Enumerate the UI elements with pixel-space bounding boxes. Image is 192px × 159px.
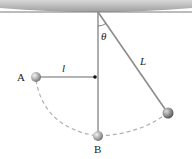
label-pendulum-length: L xyxy=(139,55,146,67)
angle-arc xyxy=(98,24,106,27)
trajectory-arc xyxy=(36,80,166,136)
ceiling xyxy=(0,0,192,12)
label-angle: θ xyxy=(101,30,107,42)
label-a: A xyxy=(17,71,25,83)
bob-b xyxy=(93,131,103,141)
pendulum-string xyxy=(98,12,167,112)
bob-a xyxy=(31,72,41,82)
bob-swing xyxy=(163,108,174,119)
pendulum-diagram: A B l L θ xyxy=(0,0,192,159)
nail-dot xyxy=(93,75,97,79)
label-short-length: l xyxy=(62,62,65,74)
label-b: B xyxy=(94,143,101,155)
